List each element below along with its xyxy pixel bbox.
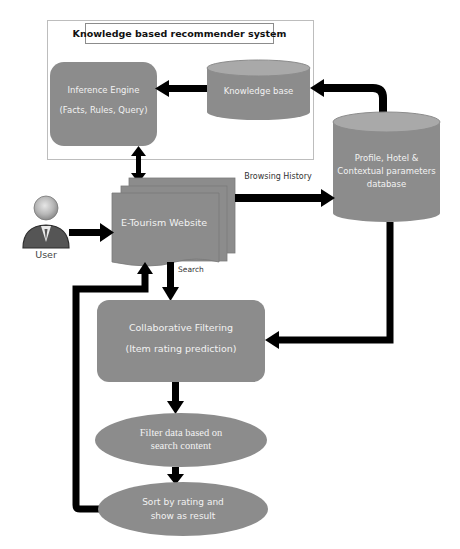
- knowledge-base-node: Knowledge base: [207, 60, 310, 120]
- database-label-1: Profile, Hotel &: [355, 153, 419, 163]
- user-node: User: [23, 196, 69, 260]
- kbrs-title: Knowledge based recommender system: [73, 28, 287, 39]
- sort-result-node: Sort by rating and show as result: [98, 482, 268, 536]
- database-label-2: Contextual parameters: [337, 166, 436, 176]
- arrow-sort-to-website: [76, 262, 153, 509]
- knowledge-base-label: Knowledge base: [224, 86, 294, 96]
- cf-sublabel: (Item rating prediction): [126, 343, 237, 354]
- arrow-db-to-cf: [265, 222, 390, 349]
- inference-engine-node: Inference Engine (Facts, Rules, Query): [50, 62, 157, 146]
- arrow-cf-to-filter: [167, 382, 184, 414]
- arrow-website-to-cf: Search: [162, 262, 204, 301]
- browsing-history-label: Browsing History: [244, 172, 312, 181]
- user-label: User: [35, 249, 57, 260]
- sort-result-label-2: show as result: [151, 511, 216, 521]
- cf-label: Collaborative Filtering: [129, 322, 233, 333]
- search-label: Search: [178, 265, 204, 274]
- arrow-db-to-kb: [310, 79, 383, 115]
- collaborative-filtering-node: Collaborative Filtering (Item rating pre…: [97, 300, 265, 382]
- inference-engine-sublabel: (Facts, Rules, Query): [60, 105, 148, 115]
- filter-data-label-2: search content: [151, 440, 211, 451]
- website-label: E-Tourism Website: [121, 217, 207, 228]
- database-node: Profile, Hotel & Contextual parameters d…: [333, 112, 440, 222]
- arrow-user-to-website: [69, 223, 114, 242]
- user-icon: [23, 196, 69, 248]
- filter-data-label-1: Filter data based on: [140, 427, 223, 438]
- database-label-3: database: [367, 179, 406, 189]
- arrow-website-to-db: Browsing History: [235, 172, 335, 207]
- website-node: E-Tourism Website: [112, 178, 235, 266]
- inference-engine-label: Inference Engine: [68, 85, 140, 95]
- recommender-diagram: Knowledge based recommender system Infer…: [0, 0, 460, 549]
- filter-data-node: Filter data based on search content: [95, 413, 267, 467]
- sort-result-label-1: Sort by rating and: [142, 497, 224, 507]
